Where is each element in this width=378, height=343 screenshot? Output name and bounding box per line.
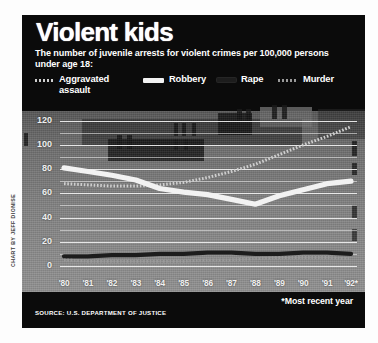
x-tick-89: '89 — [274, 278, 285, 288]
series-line-murder — [64, 258, 351, 262]
chart-subtitle: The number of juvenile arrests for viole… — [35, 48, 355, 71]
y-tick-120: 120 — [22, 115, 52, 125]
y-tick-40: 40 — [22, 212, 52, 222]
chart-graphic: Violent kids The number of juvenile arre… — [22, 15, 365, 328]
legend-label-murder: Murder — [303, 74, 334, 85]
gridline-0 — [60, 266, 357, 267]
x-tick-82: '82 — [107, 278, 118, 288]
chart-axes: 020406080100120 — [60, 111, 357, 266]
legend-label-robbery: Robbery — [169, 74, 206, 85]
y-tick-80: 80 — [22, 163, 52, 173]
y-tick-100: 100 — [22, 139, 52, 149]
legend-swatch-robbery — [143, 78, 164, 83]
y-tick-0: 0 — [22, 260, 52, 270]
source-text: SOURCE: U.S. DEPARTMENT OF JUSTICE — [35, 309, 166, 316]
series-line-aggravated-assault — [64, 127, 351, 186]
legend-swatch-murder — [278, 79, 297, 82]
x-tick-87: '87 — [226, 278, 237, 288]
x-tick-86: '86 — [202, 278, 213, 288]
data-series-layer — [60, 111, 357, 266]
chart-credit: CHART BY JEFF DIONISE — [10, 195, 16, 267]
x-tick-80: '80 — [59, 278, 70, 288]
x-tick-90: '90 — [298, 278, 309, 288]
footnote-text: *Most recent year — [281, 296, 353, 306]
series-line-rape — [64, 253, 351, 257]
x-tick-81: '81 — [83, 278, 94, 288]
chart-plot-area: 020406080100120 '80'81'82'83'84'85'86'87… — [22, 111, 365, 292]
legend-swatch-rape — [217, 78, 236, 82]
y-tick-20: 20 — [22, 236, 52, 246]
x-tick-88: '88 — [250, 278, 261, 288]
x-tick-83: '83 — [130, 278, 141, 288]
y-tick-60: 60 — [22, 187, 52, 197]
x-tick-85: '85 — [178, 278, 189, 288]
chart-footer: SOURCE: U.S. DEPARTMENT OF JUSTICE *Most… — [22, 292, 365, 328]
x-tick-92: '92* — [344, 278, 358, 288]
chart-legend: Aggravated assault Robbery Rape Murder — [35, 75, 360, 105]
legend-swatch-aggravated-assault — [35, 79, 53, 82]
x-tick-91: '91 — [322, 278, 333, 288]
page-title: Violent kids — [36, 19, 173, 45]
legend-label-rape: Rape — [241, 74, 263, 85]
chart-header: Violent kids The number of juvenile arre… — [22, 15, 365, 111]
infographic-root: CHART BY JEFF DIONISE Violent kids The n… — [0, 0, 378, 343]
x-tick-84: '84 — [154, 278, 165, 288]
legend-label-aggravated-assault: Aggravated assault — [59, 74, 139, 95]
